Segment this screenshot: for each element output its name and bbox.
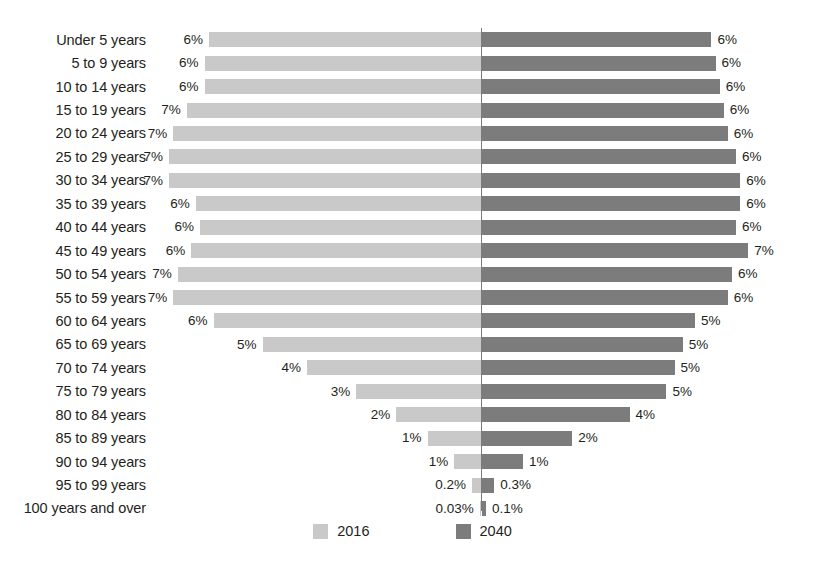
bar-2016[interactable] bbox=[178, 267, 481, 282]
bar-2040[interactable] bbox=[482, 290, 728, 305]
category-label: 10 to 14 years bbox=[0, 79, 146, 94]
bar-2040[interactable] bbox=[482, 267, 732, 282]
bar-2016[interactable] bbox=[396, 407, 481, 422]
bar-2016[interactable] bbox=[191, 243, 481, 258]
bar-value-2040: 7% bbox=[748, 244, 774, 258]
bar-2016[interactable] bbox=[205, 56, 481, 71]
category-label: 75 to 79 years bbox=[0, 384, 146, 399]
bar-value-2016: 6% bbox=[179, 80, 205, 94]
bar-value-2016: 6% bbox=[179, 56, 205, 70]
bar-group-2016: 3% bbox=[150, 380, 481, 403]
bar-value-2040: 5% bbox=[695, 314, 721, 328]
bar-2040[interactable] bbox=[482, 103, 724, 118]
bar-group-2016: 2% bbox=[150, 403, 481, 426]
bar-value-2016: 1% bbox=[429, 455, 455, 469]
bar-group-2016: 4% bbox=[150, 356, 481, 379]
bar-group-2016: 1% bbox=[150, 450, 481, 473]
bar-2016[interactable] bbox=[263, 337, 481, 352]
chart-row: 20 to 24 years7%6% bbox=[0, 122, 825, 145]
category-label: 100 years and over bbox=[0, 501, 146, 516]
bar-2040[interactable] bbox=[482, 149, 736, 164]
population-pyramid-chart: Under 5 years6%6%5 to 9 years6%6%10 to 1… bbox=[0, 0, 825, 569]
bar-2040[interactable] bbox=[482, 173, 740, 188]
category-label: 30 to 34 years bbox=[0, 173, 146, 188]
legend-swatch-2040-icon bbox=[456, 524, 471, 539]
bar-value-2040: 0.1% bbox=[486, 502, 523, 516]
bar-group-2016: 6% bbox=[150, 216, 481, 239]
chart-row: 80 to 84 years2%4% bbox=[0, 403, 825, 426]
chart-row: 45 to 49 years6%7% bbox=[0, 239, 825, 262]
bar-value-2040: 5% bbox=[683, 338, 709, 352]
bar-2040[interactable] bbox=[482, 431, 572, 446]
bar-value-2016: 0.03% bbox=[435, 502, 479, 516]
bar-value-2040: 6% bbox=[728, 291, 754, 305]
chart-row: 55 to 59 years7%6% bbox=[0, 286, 825, 309]
bar-2040[interactable] bbox=[482, 126, 728, 141]
bar-group-2040: 6% bbox=[482, 122, 825, 145]
bar-2016[interactable] bbox=[169, 173, 481, 188]
bar-2040[interactable] bbox=[482, 243, 748, 258]
category-label: 55 to 59 years bbox=[0, 290, 146, 305]
bar-2016[interactable] bbox=[205, 79, 481, 94]
category-label: 25 to 29 years bbox=[0, 150, 146, 165]
bar-2016[interactable] bbox=[428, 431, 482, 446]
bar-2016[interactable] bbox=[307, 360, 481, 375]
bar-2016[interactable] bbox=[214, 313, 482, 328]
bar-value-2040: 5% bbox=[666, 385, 692, 399]
bar-2040[interactable] bbox=[482, 220, 736, 235]
category-label: 15 to 19 years bbox=[0, 103, 146, 118]
bar-group-2040: 6% bbox=[482, 51, 825, 74]
bar-group-2016: 7% bbox=[150, 169, 481, 192]
category-label: 80 to 84 years bbox=[0, 407, 146, 422]
bar-value-2040: 6% bbox=[720, 80, 746, 94]
bar-group-2016: 7% bbox=[150, 145, 481, 168]
bar-2040[interactable] bbox=[482, 56, 716, 71]
bar-2016[interactable] bbox=[196, 196, 481, 211]
bar-group-2040: 6% bbox=[482, 192, 825, 215]
bar-value-2040: 2% bbox=[572, 431, 598, 445]
bar-2040[interactable] bbox=[482, 79, 720, 94]
legend-item-2040[interactable]: 2040 bbox=[456, 524, 512, 539]
bar-group-2016: 6% bbox=[150, 51, 481, 74]
category-label: 20 to 24 years bbox=[0, 126, 146, 141]
legend-swatch-2016-icon bbox=[313, 524, 328, 539]
bar-group-2040: 2% bbox=[482, 426, 825, 449]
bar-value-2040: 6% bbox=[728, 127, 754, 141]
bar-group-2040: 6% bbox=[482, 98, 825, 121]
bar-2040[interactable] bbox=[482, 454, 523, 469]
bar-2016[interactable] bbox=[173, 290, 481, 305]
bar-group-2016: 6% bbox=[150, 192, 481, 215]
bar-value-2016: 3% bbox=[331, 385, 357, 399]
bar-2040[interactable] bbox=[482, 407, 630, 422]
bar-value-2040: 4% bbox=[630, 408, 656, 422]
center-axis-line bbox=[481, 28, 482, 511]
bar-2016[interactable] bbox=[472, 478, 481, 493]
chart-row: 15 to 19 years7%6% bbox=[0, 98, 825, 121]
bar-group-2040: 6% bbox=[482, 75, 825, 98]
bar-2040[interactable] bbox=[482, 478, 494, 493]
legend-item-2016[interactable]: 2016 bbox=[313, 524, 369, 539]
chart-row: Under 5 years6%6% bbox=[0, 28, 825, 51]
bar-2040[interactable] bbox=[482, 384, 666, 399]
bar-2040[interactable] bbox=[482, 313, 695, 328]
bar-2016[interactable] bbox=[356, 384, 481, 399]
bar-value-2040: 6% bbox=[724, 103, 750, 117]
bar-2016[interactable] bbox=[187, 103, 481, 118]
chart-row: 90 to 94 years1%1% bbox=[0, 450, 825, 473]
bar-2040[interactable] bbox=[482, 32, 711, 47]
bar-group-2016: 7% bbox=[150, 98, 481, 121]
bar-2016[interactable] bbox=[200, 220, 481, 235]
bar-value-2016: 0.2% bbox=[435, 478, 472, 492]
bar-2040[interactable] bbox=[482, 360, 675, 375]
bar-2016[interactable] bbox=[209, 32, 481, 47]
bar-2016[interactable] bbox=[169, 149, 481, 164]
bar-2016[interactable] bbox=[173, 126, 481, 141]
chart-row: 65 to 69 years5%5% bbox=[0, 333, 825, 356]
bar-group-2016: 6% bbox=[150, 75, 481, 98]
bar-2040[interactable] bbox=[482, 196, 740, 211]
bar-group-2016: 7% bbox=[150, 262, 481, 285]
bar-2040[interactable] bbox=[482, 337, 683, 352]
category-label: Under 5 years bbox=[0, 32, 146, 47]
bar-2016[interactable] bbox=[454, 454, 481, 469]
bar-value-2040: 6% bbox=[716, 56, 742, 70]
